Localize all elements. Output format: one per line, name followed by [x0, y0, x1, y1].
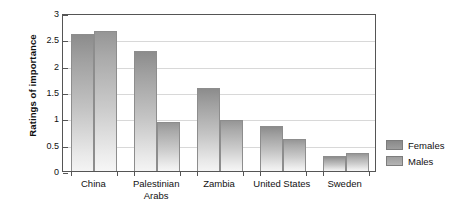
x-axis-tick-mark	[306, 171, 307, 176]
y-axis-tick-label: 1.5	[46, 88, 59, 99]
x-axis-label-zambia: Zambia	[188, 178, 251, 190]
legend-swatch-males-icon	[386, 156, 403, 166]
y-axis-tick-label: 2.5	[46, 35, 59, 46]
x-axis-label-united-states: United States	[250, 178, 313, 190]
x-axis-label-china: China	[62, 178, 125, 190]
x-axis-label-sweden: Sweden	[313, 178, 376, 190]
y-axis-tick: 2.5	[63, 41, 68, 42]
x-axis-tick-mark	[243, 171, 244, 176]
chart-legend: Females Males	[386, 139, 460, 171]
y-axis-tick: 0	[63, 173, 68, 174]
x-axis-tick-mark	[323, 171, 324, 176]
legend-item-males: Males	[386, 155, 460, 167]
y-axis-tick-mark	[63, 41, 68, 42]
y-axis-tick-mark	[63, 120, 68, 121]
bar-united-states-males	[283, 139, 306, 171]
bar-zambia-females	[197, 88, 220, 171]
y-axis-tick: 3	[63, 15, 68, 16]
y-axis-tick-mark	[63, 68, 68, 69]
bar-chart-figure: Ratings of importance 00.511.522.53 Chin…	[0, 0, 461, 209]
y-axis-tick-label: 3	[54, 9, 59, 20]
bar-china-females	[71, 34, 94, 171]
x-axis-tick-mark	[180, 171, 181, 176]
y-axis-tick-mark	[63, 173, 68, 174]
bar-zambia-males	[220, 120, 243, 171]
x-axis-label-palestinian-arabs: Palestinian Arabs	[125, 178, 188, 201]
legend-swatch-females-icon	[386, 140, 403, 150]
bar-sweden-females	[323, 156, 346, 171]
bar-palestinian-arabs-males	[157, 122, 180, 171]
legend-item-females: Females	[386, 139, 460, 151]
x-axis-tick-mark	[197, 171, 198, 176]
y-axis-tick-mark	[63, 94, 68, 95]
x-axis-tick-mark	[369, 171, 370, 176]
bar-palestinian-arabs-females	[134, 51, 157, 171]
x-axis-tick-mark	[71, 171, 72, 176]
x-axis-tick-mark	[134, 171, 135, 176]
y-axis-tick: 1.5	[63, 94, 68, 95]
bar-united-states-females	[260, 126, 283, 171]
y-axis-tick: 0.5	[63, 147, 68, 148]
y-axis-tick-label: 0.5	[46, 141, 59, 152]
bar-sweden-males	[346, 153, 369, 171]
legend-label-females: Females	[408, 140, 444, 151]
y-axis-tick: 1	[63, 120, 68, 121]
bar-china-males	[94, 31, 117, 171]
y-axis-tick-mark	[63, 15, 68, 16]
y-axis-tick-label: 0	[54, 167, 59, 178]
legend-label-males: Males	[408, 156, 433, 167]
y-axis-tick-mark	[63, 147, 68, 148]
y-axis-title: Ratings of importance	[27, 6, 38, 166]
y-axis-tick: 2	[63, 68, 68, 69]
x-axis-tick-mark	[260, 171, 261, 176]
y-axis-tick-label: 1	[54, 114, 59, 125]
x-axis-tick-mark	[117, 171, 118, 176]
plot-area: 00.511.522.53	[62, 14, 376, 172]
y-axis-tick-label: 2	[54, 62, 59, 73]
